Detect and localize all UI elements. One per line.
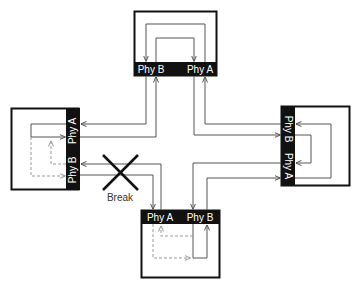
node-left: Phy A Phy B xyxy=(12,108,81,190)
break-marker: Break xyxy=(103,155,138,203)
node-left-port-phy-a: Phy A xyxy=(67,118,78,144)
node-bottom: Phy A Phy B xyxy=(141,210,220,278)
node-right-port-phy-a: Phy A xyxy=(283,153,294,179)
node-bottom-port-phy-b: Phy B xyxy=(187,212,214,223)
node-bottom-port-phy-a: Phy A xyxy=(147,212,173,223)
node-right-port-phy-b: Phy B xyxy=(283,116,294,143)
link-top-phyb-to-left-phya xyxy=(81,76,146,124)
node-top-port-phy-a: Phy A xyxy=(187,64,213,75)
link-left-phya-to-top-phyb xyxy=(80,77,156,137)
break-label: Break xyxy=(107,192,134,203)
link-top-phya-to-right-phyb xyxy=(194,76,280,135)
link-right-phya-to-bottom-phyb xyxy=(193,163,281,209)
node-top-port-phy-b: Phy B xyxy=(138,64,165,75)
link-bottom-phyb-to-right-phya xyxy=(207,178,280,210)
node-top: Phy B Phy A xyxy=(134,12,217,77)
node-right: Phy B Phy A xyxy=(281,106,350,186)
link-right-phyb-to-top-phya xyxy=(205,77,281,124)
node-left-port-phy-b: Phy B xyxy=(67,156,78,183)
ring-diagram: Phy B Phy A Phy A Phy B Phy B Phy A Phy … xyxy=(0,0,359,289)
